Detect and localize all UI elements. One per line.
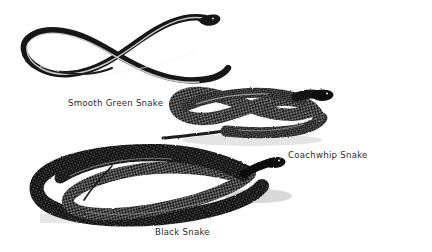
caption-smooth-green-snake: Smooth Green Snake <box>68 99 163 108</box>
caption-coachwhip-snake: Coachwhip Snake <box>288 151 368 160</box>
illustration-plate: Smooth Green Snake Coachwhip Snake Black… <box>0 0 432 252</box>
coachwhip-eye <box>326 93 328 95</box>
green-snake-eye <box>212 18 214 20</box>
caption-black-snake: Black Snake <box>155 228 210 237</box>
snake-illustration-svg <box>0 0 432 252</box>
black-snake-eye <box>278 160 280 162</box>
